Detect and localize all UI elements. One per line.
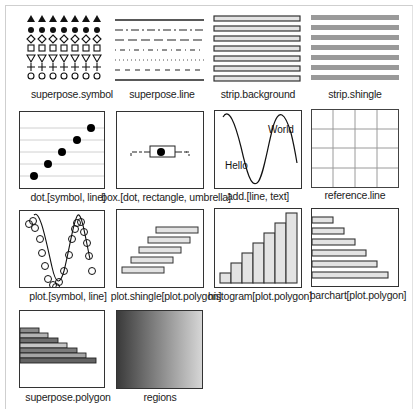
- caption-regions: regions: [100, 391, 220, 403]
- add-line-text-panel: Hello World: [214, 110, 302, 189]
- cell-reference-line: reference.line: [311, 109, 411, 204]
- regions-gradient-panel: [116, 310, 203, 389]
- barchart-bars-graphic: [312, 209, 398, 286]
- dot-plot-graphic: [20, 112, 104, 188]
- shingle-bars-graphic: [117, 210, 203, 287]
- strip-shingle-graphic: [310, 12, 402, 82]
- dot-symbol-line-panel: [19, 111, 105, 189]
- strip-shingle-panel: [310, 12, 402, 82]
- sine-text-graphic: Hello World: [215, 111, 301, 188]
- cell-regions: regions: [116, 310, 216, 405]
- strip-background-graphic: [212, 12, 304, 82]
- plot-shingle-panel: [116, 209, 204, 288]
- plot-symbol-line-panel: [19, 210, 105, 288]
- superpose-polygon-graphic: [20, 311, 104, 387]
- superpose-symbol-panel: [18, 12, 106, 82]
- scatter-sine-graphic: [20, 211, 104, 287]
- strip-background-panel: [212, 12, 304, 82]
- line-styles-graphic: [114, 12, 206, 82]
- symbol-grid-graphic: [18, 12, 106, 82]
- box-plot-panel: [116, 111, 204, 189]
- box-umbrella-graphic: [117, 112, 203, 188]
- cell-barchart: barchart[plot.polygon]: [311, 208, 411, 303]
- barchart-panel: [311, 208, 399, 287]
- caption-barchart: barchart[plot.polygon]: [293, 289, 418, 301]
- superpose-line-panel: [114, 12, 206, 82]
- reference-grid-graphic: [312, 110, 398, 187]
- world-label: World: [268, 124, 294, 135]
- histogram-bars-graphic: [215, 209, 301, 287]
- cell-strip-shingle: strip.shingle: [310, 12, 410, 102]
- superpose-polygon-panel: [19, 310, 105, 388]
- caption-strip-shingle: strip.shingle: [295, 88, 415, 100]
- reference-line-panel: [311, 109, 399, 188]
- histogram-panel: [214, 208, 302, 288]
- caption-reference-line: reference.line: [295, 189, 415, 201]
- hello-label: Hello: [225, 160, 248, 171]
